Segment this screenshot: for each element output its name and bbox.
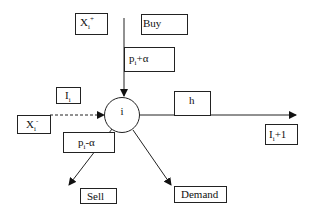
inventory-box: Ii (56, 87, 81, 104)
sell-box: Sell (80, 188, 117, 204)
p-minus-alpha-box: pi-α (63, 132, 115, 153)
buy-box: Buy (141, 14, 188, 35)
holding-cost-box: h (174, 91, 211, 116)
demand-edge (133, 130, 171, 185)
demand-box: Demand (174, 186, 227, 203)
p-plus-alpha-box: pi+α (124, 47, 175, 72)
node-i: i (104, 97, 140, 133)
inventory-next-box: Ii+1 (265, 124, 298, 145)
x-minus-box: Xi- (17, 115, 51, 134)
x-plus-box: Xi+ (75, 13, 108, 35)
